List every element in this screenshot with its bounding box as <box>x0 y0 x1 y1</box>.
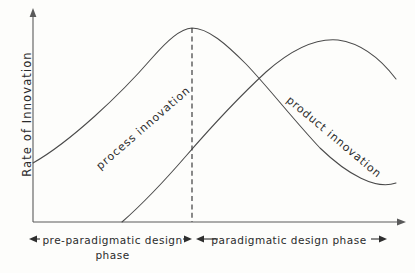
pre-paradigmatic-phase-label-line2: phase <box>39 249 186 261</box>
y-axis-label: Rate of Innovation <box>20 49 34 179</box>
pre-paradigmatic-phase-label: pre-paradigmatic design <box>39 234 186 246</box>
left-arrow-icon <box>29 236 37 243</box>
right-arrow-icon <box>379 236 387 243</box>
x-axis-arrow-icon <box>397 219 406 226</box>
product-innovation-curve <box>33 28 396 185</box>
figure-root: Rate of Innovation process innovation pr… <box>0 0 415 273</box>
x-axis <box>33 219 406 226</box>
process-innovation-curve <box>122 40 396 222</box>
innovation-rate-chart <box>0 0 415 273</box>
y-axis-arrow-icon <box>30 8 37 17</box>
paradigmatic-phase-label: paradigmatic design phase <box>203 234 375 246</box>
